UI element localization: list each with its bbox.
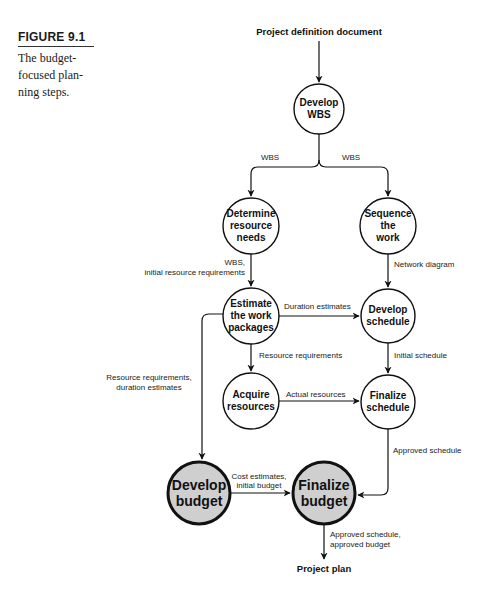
svg-text:resources: resources: [227, 401, 275, 412]
label-cost-estimates-1: Cost estimates,: [231, 472, 286, 481]
edge-wbs-right: [319, 160, 388, 196]
svg-text:budget: budget: [176, 493, 223, 509]
label-wbs-left: WBS: [261, 153, 279, 162]
node-finalize-schedule: Finalize schedule: [361, 375, 415, 429]
svg-text:the work: the work: [230, 310, 272, 321]
label-initial-schedule: Initial schedule: [394, 351, 447, 360]
node-estimate-work-packages: Estimate the work packages: [223, 288, 279, 344]
input-label: Project definition document: [256, 26, 382, 37]
label-duration-estimates: Duration estimates: [284, 302, 351, 311]
svg-text:the: the: [381, 220, 396, 231]
node-sequence-the-work: Sequence the work: [360, 198, 416, 254]
label-network-diagram: Network diagram: [394, 260, 455, 269]
svg-text:Acquire: Acquire: [232, 389, 270, 400]
node-determine-resource-needs: Determine resource needs: [223, 198, 279, 254]
label-wbs-initial-2: initial resource requirements: [145, 268, 246, 277]
node-finalize-budget: Finalize budget: [293, 462, 355, 524]
svg-text:Develop: Develop: [369, 304, 408, 315]
output-label: Project plan: [297, 563, 352, 574]
svg-text:WBS: WBS: [307, 109, 331, 120]
svg-text:Determine: Determine: [227, 208, 276, 219]
svg-text:Develop: Develop: [172, 477, 226, 493]
node-develop-wbs: Develop WBS: [294, 84, 344, 134]
flow-diagram: Project definition document Develop WBS …: [0, 0, 503, 599]
svg-text:packages: packages: [228, 322, 274, 333]
label-resource-duration-1: Resource requirements,: [106, 373, 191, 382]
node-develop-budget: Develop budget: [168, 462, 230, 524]
label-approved-final-1: Approved schedule,: [330, 530, 401, 539]
svg-text:Finalize: Finalize: [370, 390, 407, 401]
svg-text:schedule: schedule: [366, 402, 410, 413]
label-wbs-initial-1: WBS,: [225, 258, 245, 267]
label-cost-estimates-2: initial budget: [237, 481, 283, 490]
label-resource-duration-2: duration estimates: [116, 383, 181, 392]
svg-text:Develop: Develop: [300, 97, 339, 108]
svg-text:schedule: schedule: [366, 316, 410, 327]
node-develop-schedule: Develop schedule: [361, 289, 415, 343]
edge-approved-schedule: [358, 429, 388, 495]
label-approved-final-2: approved budget: [330, 540, 391, 549]
svg-text:resource: resource: [230, 220, 273, 231]
svg-text:Finalize: Finalize: [298, 477, 350, 493]
svg-text:budget: budget: [301, 493, 348, 509]
edge-wbs-left: [251, 134, 319, 196]
svg-text:Estimate: Estimate: [230, 298, 272, 309]
svg-text:needs: needs: [237, 232, 266, 243]
label-approved-schedule: Approved schedule: [393, 446, 462, 455]
svg-text:Sequence: Sequence: [364, 208, 412, 219]
label-wbs-right: WBS: [342, 153, 360, 162]
edge-resource-duration: [202, 314, 223, 459]
label-actual-resources: Actual resources: [286, 390, 346, 399]
label-resource-requirements: Resource requirements: [259, 351, 342, 360]
svg-text:work: work: [375, 232, 400, 243]
node-acquire-resources: Acquire resources: [223, 373, 279, 429]
